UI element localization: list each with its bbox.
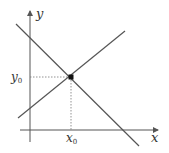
x0-label: x0 (66, 131, 77, 146)
x-axis-label: x (151, 130, 159, 145)
y-axis-label: y (35, 6, 44, 21)
y0-label: y0 (10, 70, 22, 85)
decreasing-line (16, 24, 139, 146)
intersection-diagram: y x y0 x0 (0, 0, 169, 153)
intersection-point (69, 75, 74, 80)
